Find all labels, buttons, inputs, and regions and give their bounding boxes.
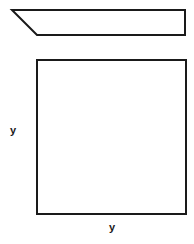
diagram-canvas <box>0 0 194 244</box>
parallelogram-shape <box>12 10 185 35</box>
square-shape <box>37 60 186 214</box>
left-side-label: y <box>10 125 16 136</box>
bottom-side-label: y <box>109 222 115 233</box>
